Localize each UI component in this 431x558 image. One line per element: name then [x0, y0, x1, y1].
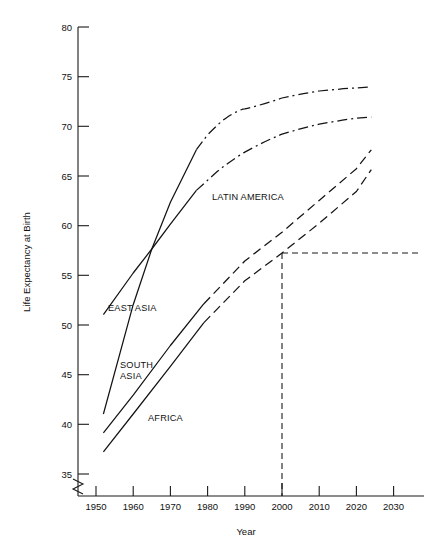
- south-asia-projected-line: [204, 150, 371, 304]
- series-latin-america: [103, 117, 371, 314]
- y-tick-label: 60: [61, 220, 72, 231]
- chart-canvas: 80 75 70 65 60 55 50 45 40 35 1950: [0, 0, 431, 558]
- africa-observed-line: [103, 323, 203, 452]
- series-label-africa: AFRICA: [148, 413, 184, 423]
- x-tick-label: 2000: [271, 501, 292, 512]
- latin-america-projected-line: [196, 117, 371, 190]
- y-axis-break-icon: [73, 479, 83, 494]
- x-tick-label: 1950: [85, 501, 106, 512]
- x-tick-label: 2030: [383, 501, 404, 512]
- x-tick-label: 2010: [309, 501, 330, 512]
- x-tick-label: 2020: [346, 501, 367, 512]
- x-tick-label: 1970: [160, 501, 181, 512]
- y-tick-label: 70: [61, 121, 72, 132]
- y-tick-label: 45: [61, 369, 72, 380]
- x-tick-label: 1990: [234, 501, 255, 512]
- life-expectancy-chart: 80 75 70 65 60 55 50 45 40 35 1950: [0, 0, 431, 558]
- y-axis-title: Life Expectancy at Birth: [21, 212, 32, 312]
- east-asia-observed-line: [103, 150, 196, 414]
- series-label-south-asia-line2: ASIA: [120, 371, 142, 381]
- y-tick-label: 50: [61, 320, 72, 331]
- x-axis-title: Year: [236, 526, 255, 537]
- series-label-latin-america: LATIN AMERICA: [212, 192, 285, 202]
- y-tick-label: 35: [61, 469, 72, 480]
- y-tick-label: 65: [61, 171, 72, 182]
- y-axis-ticks: 80 75 70 65 60 55 50 45 40 35: [61, 22, 89, 480]
- series-label-east-asia: EAST ASIA: [108, 303, 157, 313]
- series-label-south-asia-line1: SOUTH: [120, 360, 153, 370]
- y-tick-label: 75: [61, 71, 72, 82]
- y-tick-label: 55: [61, 270, 72, 281]
- east-asia-projected-line: [196, 87, 371, 150]
- x-tick-label: 1980: [197, 501, 218, 512]
- x-tick-label: 1960: [123, 501, 144, 512]
- latin-america-observed-line: [103, 190, 196, 314]
- x-axis-ticks: 1950 1960 1970 1980 1990 2000 2010 2020 …: [85, 483, 404, 512]
- y-tick-label: 40: [61, 419, 72, 430]
- y-tick-label: 80: [61, 22, 72, 33]
